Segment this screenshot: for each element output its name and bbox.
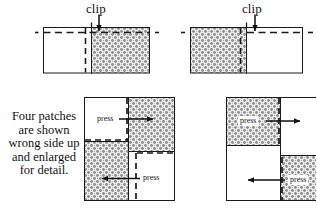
caption-line-2: are shown — [0, 124, 88, 138]
panel-bottom-left — [85, 98, 175, 201]
caption-line-3: wrong side up — [0, 137, 88, 151]
top-left-plain-patch — [44, 28, 92, 74]
br-upper-right-plain-patch — [281, 98, 317, 156]
caption-line-5: for detail. — [0, 164, 88, 178]
br-lower-left-plain-patch — [227, 146, 281, 201]
press-label-bottom-left-upper: press — [95, 114, 115, 124]
press-label-bottom-right-lower: press — [288, 175, 308, 185]
clip-label-top-left: clip — [86, 2, 106, 15]
figure-canvas: clip clip press press press press Four p… — [0, 0, 316, 211]
bl-lower-left-shaded-patch — [85, 142, 129, 201]
panel-top-left — [35, 15, 159, 74]
bl-upper-right-shaded-patch — [129, 98, 175, 152]
clip-label-top-right: clip — [242, 2, 262, 15]
top-left-shaded-patch — [92, 28, 150, 74]
caption-line-1: Four patches — [0, 110, 88, 124]
figure-caption: Four patches are shown wrong side up and… — [0, 110, 88, 178]
press-label-bottom-left-lower: press — [141, 173, 161, 183]
top-right-shaded-patch — [191, 28, 247, 74]
panel-top-right — [181, 15, 313, 74]
press-label-bottom-right-upper: press — [238, 116, 258, 126]
caption-line-4: and enlarged — [0, 151, 88, 165]
top-right-plain-patch — [247, 28, 303, 74]
